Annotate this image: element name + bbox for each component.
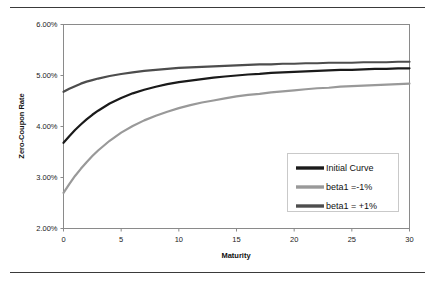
y-tick-label: 6.00%: [36, 20, 58, 29]
x-tick-label: 25: [348, 235, 356, 244]
x-tick-label: 30: [405, 235, 413, 244]
legend-label: Initial Curve: [326, 163, 374, 173]
legend-label: beta1 =-1%: [326, 182, 372, 192]
legend-label: beta1 = +1%: [326, 201, 377, 211]
y-tick-label: 3.00%: [36, 173, 58, 182]
x-tick-label: 0: [61, 235, 65, 244]
x-tick-label: 15: [232, 235, 240, 244]
y-tick-label: 2.00%: [36, 224, 58, 233]
x-tick-label: 5: [119, 235, 123, 244]
x-axis-title: Maturity: [221, 251, 251, 260]
x-tick-label: 10: [175, 235, 183, 244]
x-axis-tick-labels: 051015202530: [61, 229, 413, 244]
legend: Initial Curvebeta1 =-1%beta1 = +1%: [288, 154, 399, 212]
y-axis-title: Zero-Coupon Rate: [17, 93, 26, 158]
zero-coupon-rate-line-chart: 2.00%3.00%4.00%5.00%6.00% 051015202530 M…: [0, 0, 435, 284]
y-tick-label: 4.00%: [36, 122, 58, 131]
y-axis-tick-labels: 2.00%3.00%4.00%5.00%6.00%: [36, 20, 63, 233]
y-tick-label: 5.00%: [36, 71, 58, 80]
x-tick-label: 20: [290, 235, 298, 244]
figure-container: 2.00%3.00%4.00%5.00%6.00% 051015202530 M…: [0, 0, 435, 284]
